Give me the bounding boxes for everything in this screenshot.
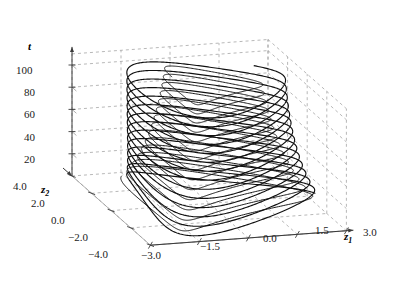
t-axis-tick-0: 100	[16, 64, 33, 76]
z2-axis-tick-1: 2.0	[31, 197, 45, 209]
t-axis-tick-4: 20	[24, 153, 35, 165]
axis-label-z1: z1	[344, 230, 352, 245]
z1-axis-tick-4: 3.0	[363, 226, 377, 238]
z1-axis-tick-0: −3.0	[141, 249, 161, 261]
plot-canvas	[0, 0, 394, 286]
t-axis-tick-1: 80	[24, 86, 35, 98]
axis-label-z2: z2	[41, 183, 49, 198]
z2-axis-tick-4: −4.0	[88, 248, 108, 260]
z2-axis-tick-2: 0.0	[51, 214, 65, 226]
z1-axis-tick-1: −1.5	[200, 240, 220, 252]
t-axis-tick-2: 60	[24, 108, 35, 120]
z2-axis-tick-0: 4.0	[13, 180, 27, 192]
z1-axis-tick-2: 0.0	[263, 232, 277, 244]
figure-3d-phase-plot: t z2 z1 100806040204.02.00.0−2.0−4.0−3.0…	[0, 0, 394, 286]
trajectory-curve	[121, 62, 316, 236]
z1-axis-tick-3: 1.5	[315, 224, 329, 236]
z2-axis-tick-3: −2.0	[68, 231, 88, 243]
axis-label-t: t	[28, 40, 31, 52]
t-axis-tick-3: 40	[24, 131, 35, 143]
